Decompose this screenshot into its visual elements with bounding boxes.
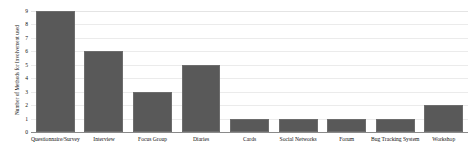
y-axis-tick-label: 6 bbox=[16, 48, 28, 54]
bar[interactable] bbox=[376, 119, 415, 132]
y-axis-tick-label: 1 bbox=[16, 116, 28, 122]
bar-slot bbox=[177, 11, 226, 132]
y-axis-tick-label: 3 bbox=[16, 89, 28, 95]
x-axis-tick-label: Cards bbox=[225, 134, 274, 148]
x-axis-tick-label: Social Networks bbox=[274, 134, 323, 148]
bar[interactable] bbox=[36, 11, 75, 132]
bar-slot bbox=[371, 11, 420, 132]
y-axis-tick-label: 8 bbox=[16, 21, 28, 27]
bar[interactable] bbox=[133, 92, 172, 132]
y-axis-tick-label: 0 bbox=[16, 129, 28, 135]
x-axis-tick-label: Questionnaire/Survey bbox=[31, 134, 80, 148]
x-axis-tick-label: Bug Tracking System bbox=[371, 134, 420, 148]
y-axis-tick-label: 2 bbox=[16, 102, 28, 108]
y-axis-tick-label: 4 bbox=[16, 75, 28, 81]
bar-slot bbox=[31, 11, 80, 132]
bar[interactable] bbox=[182, 65, 221, 132]
bar[interactable] bbox=[230, 119, 269, 132]
bar-slot bbox=[274, 11, 323, 132]
bar-slot bbox=[420, 11, 469, 132]
x-axis-tick-label: Focus Group bbox=[128, 134, 177, 148]
bar-slot bbox=[128, 11, 177, 132]
bar-chart-figure: Number of Methods for Involvement used 0… bbox=[0, 0, 476, 154]
bar[interactable] bbox=[279, 119, 318, 132]
x-axis-tick-label: Diaries bbox=[177, 134, 226, 148]
y-axis-tick-label: 5 bbox=[16, 62, 28, 68]
x-axis-tick-label: Workshop bbox=[420, 134, 469, 148]
bar[interactable] bbox=[84, 51, 123, 132]
bar-slot bbox=[225, 11, 274, 132]
y-axis-tick-labels: 0123456789 bbox=[16, 0, 30, 154]
x-axis-line bbox=[31, 132, 468, 133]
x-axis-tick-labels: Questionnaire/SurveyInterviewFocus Group… bbox=[31, 134, 468, 148]
x-axis-tick-label: Interview bbox=[80, 134, 129, 148]
bar-slot bbox=[80, 11, 129, 132]
y-axis-tick-label: 9 bbox=[16, 8, 28, 14]
x-axis-tick-label: Forum bbox=[322, 134, 371, 148]
bar[interactable] bbox=[327, 119, 366, 132]
bar[interactable] bbox=[424, 105, 463, 132]
y-axis-tick-label: 7 bbox=[16, 35, 28, 41]
bars-layer bbox=[31, 11, 468, 132]
bar-slot bbox=[322, 11, 371, 132]
plot-area bbox=[31, 11, 468, 132]
